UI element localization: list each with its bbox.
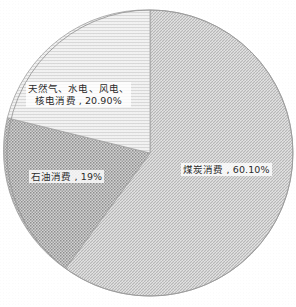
- pie-label-coal: 煤炭消费 , 60.10%: [181, 163, 272, 176]
- pie-chart-canvas: [0, 0, 296, 307]
- pie-chart: 煤炭消费 , 60.10% 石油消费 , 19% 天然气、水电、风电、 核电消费…: [0, 0, 296, 307]
- pie-label-gas-hydro-wind-nuclear: 天然气、水电、风电、 核电消费 , 20.90%: [26, 82, 131, 107]
- pie-label-oil: 石油消费 , 19%: [29, 170, 104, 183]
